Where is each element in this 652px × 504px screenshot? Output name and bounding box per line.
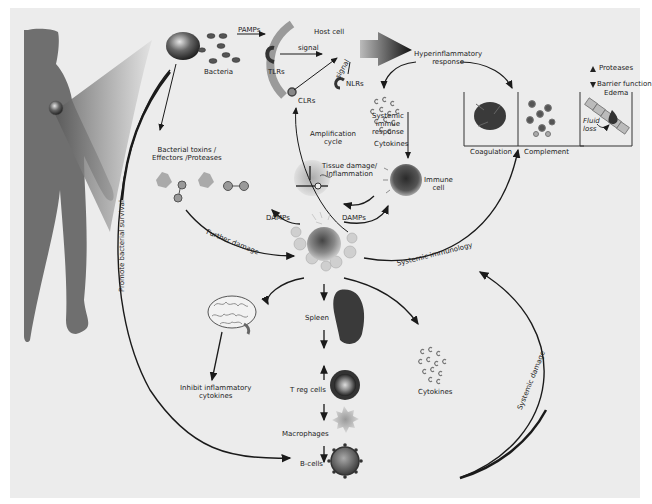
label-proteases: Proteases <box>599 64 633 72</box>
label-macrophages: Macrophages <box>282 430 329 438</box>
label-complement: Complement <box>524 148 569 156</box>
complement-icon <box>527 101 555 137</box>
label-pamps: PAMPs <box>238 26 260 34</box>
immune-cell-icon <box>383 164 422 196</box>
bacteria-icon <box>166 32 240 63</box>
infection-site-icon <box>49 101 63 115</box>
label-edema: Edema <box>604 89 628 97</box>
label-fluid-loss: Fluid loss <box>583 117 600 133</box>
label-damps-left: DAMPs <box>266 214 290 222</box>
coagulation-icon <box>474 102 506 130</box>
label-hyperinflammatory: Hyperinflammatory response <box>414 50 482 66</box>
label-amplification-cycle: Amplification cycle <box>310 130 356 146</box>
edema-icon <box>609 110 618 124</box>
label-barrier-function: Barrier function <box>597 80 652 88</box>
treg-cell-icon <box>330 370 360 400</box>
label-treg-cells: T reg cells <box>290 386 326 394</box>
spleen-icon <box>333 290 364 344</box>
label-nlrs: NLRs <box>346 80 364 88</box>
toxins-icon <box>156 172 249 202</box>
label-clrs: CLRs <box>298 97 315 105</box>
bcell-icon <box>327 443 363 479</box>
label-bcells: B-cells <box>300 460 323 468</box>
label-coagulation: Coagulation <box>470 148 512 156</box>
barrier-down-arrow <box>590 82 596 88</box>
macrophage-icon <box>332 406 359 433</box>
label-tissue-damage: Tissue damage/ Inflammation <box>322 162 377 178</box>
cytokines-icon-bottom <box>419 348 446 384</box>
label-signal-1: signal <box>298 44 319 52</box>
label-tlrs: TLRs <box>268 68 285 76</box>
label-promote-bacterial-survival: Promote bacterial survival <box>118 200 126 292</box>
label-bacteria: Bacteria <box>204 68 233 76</box>
brain-icon <box>208 296 256 334</box>
label-cytokines-top: Cytokines <box>374 140 408 148</box>
label-damps-right: DAMPs <box>342 214 366 222</box>
protease-up-arrow <box>590 66 596 72</box>
label-bacterial-toxins: Bacterial toxins / Effectors /Proteases <box>152 146 222 162</box>
label-cytokines-bottom: Cytokines <box>418 388 452 396</box>
label-host-cell: Host cell <box>314 28 344 36</box>
label-inhibit-inflammatory-cytokines: Inhibit inflammatory cytokines <box>180 384 251 400</box>
label-immune-cell: Immune cell <box>424 176 453 192</box>
label-systemic-immune-response: Systemic immue response <box>372 112 404 136</box>
big-arrow <box>360 32 412 66</box>
label-spleen: Spleen <box>305 314 329 322</box>
